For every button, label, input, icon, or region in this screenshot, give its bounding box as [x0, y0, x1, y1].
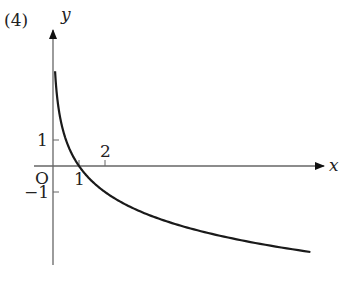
- x-axis-label: x: [329, 155, 339, 175]
- log-curve: [55, 71, 310, 252]
- x-tick-label-2: 2: [100, 141, 111, 161]
- y-tick-label-1: 1: [37, 130, 48, 150]
- graph: (4) y x O 1 2 1 −1: [0, 0, 344, 290]
- problem-label: (4): [4, 10, 28, 30]
- x-tick-label-1: 1: [74, 169, 85, 189]
- y-tick-label-neg1: −1: [24, 182, 49, 202]
- y-axis-label: y: [60, 4, 71, 24]
